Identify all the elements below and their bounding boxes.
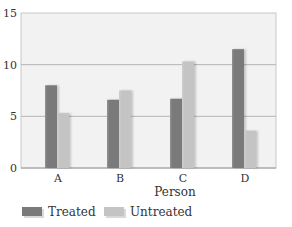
- y-tick-label: 10: [3, 59, 17, 72]
- bar-treated-a: [45, 85, 57, 168]
- bar-highlight: [45, 85, 47, 168]
- x-axis-title: Person: [154, 185, 196, 199]
- bar-treated-b: [107, 100, 119, 168]
- bar-untreated-a: [57, 113, 69, 168]
- x-axis-ticks: ABCD: [53, 172, 250, 185]
- bar-untreated-d: [244, 131, 256, 168]
- legend-label-untreated: Untreated: [130, 205, 193, 219]
- x-tick-label: B: [116, 172, 124, 185]
- legend: TreatedUntreated: [22, 205, 193, 219]
- x-tick-label: C: [179, 172, 187, 185]
- bar-untreated-c: [182, 62, 194, 168]
- bar-chart: 051015 ABCD Person TreatedUntreated: [0, 0, 292, 227]
- bar-treated-c: [170, 99, 182, 168]
- y-tick-label: 5: [10, 110, 17, 123]
- x-tick-label: D: [241, 172, 250, 185]
- bar-treated-d: [232, 49, 244, 168]
- bar-highlight: [232, 49, 234, 168]
- y-axis-ticks: 051015: [3, 7, 17, 175]
- bar-highlight: [119, 91, 121, 169]
- legend-swatch-treated: [22, 207, 42, 216]
- bar-highlight: [244, 131, 246, 168]
- bar-untreated-b: [119, 91, 131, 169]
- legend-swatch-untreated: [104, 207, 124, 216]
- bar-highlight: [107, 100, 109, 168]
- bar-highlight: [57, 113, 59, 168]
- y-tick-label: 0: [10, 162, 17, 175]
- x-tick-label: A: [53, 172, 63, 185]
- y-tick-label: 15: [3, 7, 17, 20]
- bar-highlight: [182, 62, 184, 168]
- legend-label-treated: Treated: [48, 205, 96, 219]
- bar-highlight: [170, 99, 172, 168]
